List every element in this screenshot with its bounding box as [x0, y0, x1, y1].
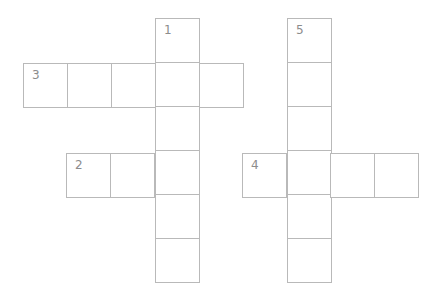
crossword-cell[interactable]	[287, 62, 332, 107]
crossword-cell[interactable]: 4	[242, 153, 287, 198]
crossword-cell[interactable]	[155, 62, 200, 107]
letter-input[interactable]	[243, 154, 286, 197]
crossword-cell[interactable]: 3	[23, 63, 68, 108]
letter-input[interactable]	[111, 154, 154, 197]
letter-input[interactable]	[288, 63, 331, 106]
crossword-cell[interactable]	[67, 63, 112, 108]
letter-input[interactable]	[156, 19, 199, 62]
crossword-cell[interactable]	[287, 238, 332, 283]
crossword-cell[interactable]	[155, 238, 200, 283]
letter-input[interactable]	[156, 151, 199, 194]
crossword-cell[interactable]	[110, 153, 155, 198]
crossword-cell[interactable]	[330, 153, 375, 198]
letter-input[interactable]	[156, 107, 199, 150]
crossword-cell[interactable]	[155, 150, 200, 195]
letter-input[interactable]	[288, 195, 331, 238]
crossword-cell[interactable]	[287, 194, 332, 239]
crossword-cell[interactable]	[374, 153, 419, 198]
letter-input[interactable]	[331, 154, 374, 197]
crossword-cell[interactable]	[199, 63, 244, 108]
letter-input[interactable]	[68, 64, 111, 107]
letter-input[interactable]	[156, 63, 199, 106]
letter-input[interactable]	[288, 107, 331, 150]
crossword-cell[interactable]	[155, 106, 200, 151]
letter-input[interactable]	[288, 239, 331, 282]
crossword-cell[interactable]	[155, 194, 200, 239]
letter-input[interactable]	[112, 64, 155, 107]
crossword-board: 15324	[0, 0, 440, 307]
letter-input[interactable]	[288, 151, 331, 194]
crossword-cell[interactable]	[111, 63, 156, 108]
crossword-cell[interactable]: 2	[66, 153, 111, 198]
crossword-cell[interactable]: 1	[155, 18, 200, 63]
letter-input[interactable]	[156, 195, 199, 238]
crossword-cell[interactable]	[287, 106, 332, 151]
letter-input[interactable]	[156, 239, 199, 282]
crossword-cell[interactable]	[287, 150, 332, 195]
letter-input[interactable]	[288, 19, 331, 62]
crossword-cell[interactable]: 5	[287, 18, 332, 63]
letter-input[interactable]	[67, 154, 110, 197]
letter-input[interactable]	[375, 154, 418, 197]
letter-input[interactable]	[200, 64, 243, 107]
letter-input[interactable]	[24, 64, 67, 107]
